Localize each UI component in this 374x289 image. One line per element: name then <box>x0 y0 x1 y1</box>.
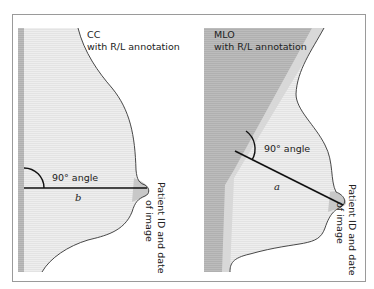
cc-patient-id-label-2: of image <box>144 200 155 242</box>
mlo-distance-label: a <box>274 181 280 192</box>
mlo-title: MLO <box>214 29 235 40</box>
mlo-angle-label: 90° angle <box>264 143 310 154</box>
cc-subtitle: with R/L annotation <box>87 41 180 52</box>
cc-chest-wall <box>18 28 24 272</box>
cc-angle-label: 90° angle <box>52 172 98 183</box>
mammography-positioning-diagram: CC with R/L annotation 90° angle b Patie… <box>0 0 374 289</box>
mlo-patient-id-label-1: Patient ID and date <box>347 184 358 276</box>
cc-distance-label: b <box>75 192 81 203</box>
mlo-patient-id-label-2: of image <box>335 202 346 244</box>
cc-patient-id-label-1: Patient ID and date <box>156 182 167 274</box>
cc-title: CC <box>87 29 101 40</box>
mlo-subtitle: with R/L annotation <box>214 41 307 52</box>
